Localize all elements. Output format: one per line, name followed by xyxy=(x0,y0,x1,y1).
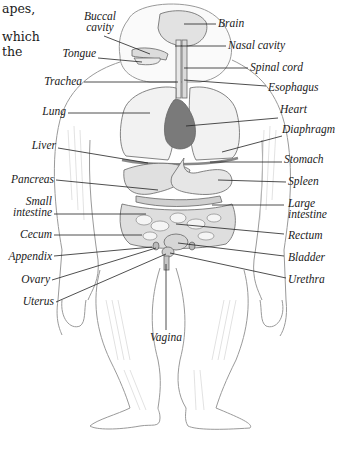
label-large-intestine: Large intestine xyxy=(288,198,327,220)
label-vagina: Vagina xyxy=(140,332,192,343)
uterus-shape xyxy=(162,247,174,257)
label-appendix: Appendix xyxy=(2,251,52,262)
trachea-tube xyxy=(176,40,181,98)
label-liver: Liver xyxy=(10,140,56,151)
label-small-intestine: Small intestine xyxy=(2,196,52,218)
label-nasal-cavity: Nasal cavity xyxy=(228,40,285,51)
label-line: intestine xyxy=(288,209,327,220)
label-brain: Brain xyxy=(218,18,244,29)
label-uterus: Uterus xyxy=(2,296,54,307)
label-line: intestine xyxy=(2,207,52,218)
label-diaphragm: Diaphragm xyxy=(282,124,335,135)
label-ovary: Ovary xyxy=(2,274,50,285)
label-heart: Heart xyxy=(280,104,307,115)
label-buccal-cavity: Buccal cavity xyxy=(72,11,128,33)
vagina-shape xyxy=(164,256,169,270)
esophagus-tube xyxy=(182,40,187,98)
label-bladder: Bladder xyxy=(288,252,325,263)
label-rectum: Rectum xyxy=(288,230,322,241)
label-spleen: Spleen xyxy=(288,176,319,187)
label-lung: Lung xyxy=(20,106,66,117)
label-esophagus: Esophagus xyxy=(268,82,318,93)
label-line: cavity xyxy=(72,22,128,33)
label-trachea: Trachea xyxy=(20,76,82,87)
pancreas-shape xyxy=(136,196,222,207)
ovary-right-shape xyxy=(189,242,195,250)
label-cecum: Cecum xyxy=(2,229,52,240)
label-urethra: Urethra xyxy=(288,274,325,285)
label-tongue: Tongue xyxy=(40,48,96,59)
label-pancreas: Pancreas xyxy=(2,174,54,185)
label-stomach: Stomach xyxy=(284,154,324,165)
label-spinal-cord: Spinal cord xyxy=(250,62,303,73)
